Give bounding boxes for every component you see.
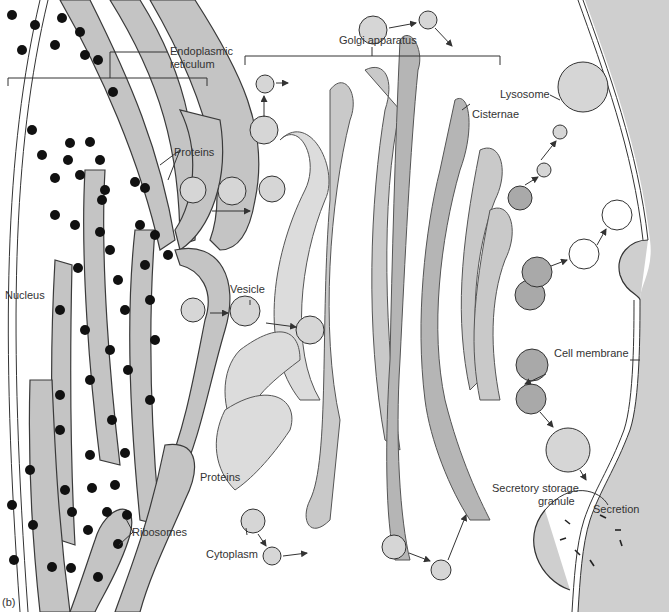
label-cytoplasm: Cytoplasm (206, 548, 258, 560)
label-nucleus: Nucleus (5, 289, 45, 301)
label-proteins-bottom: Proteins (200, 471, 241, 483)
label-proteins-top: Proteins (174, 146, 215, 158)
label-vesicle: Vesicle (230, 283, 265, 295)
label-endoplasmic-reticulum-2: reticulum (170, 58, 215, 70)
panel-label: (b) (2, 596, 15, 608)
label-secretory-1: Secretory storage (492, 482, 579, 494)
label-ribosomes: Ribosomes (132, 526, 188, 538)
label-golgi-apparatus: Golgi apparatus (339, 34, 417, 46)
label-lysosome: Lysosome (500, 88, 550, 100)
label-endoplasmic-reticulum-1: Endoplasmic (170, 45, 233, 57)
golgi-secretion-diagram: Endoplasmic reticulum Golgi apparatus Ci… (0, 0, 669, 612)
label-secretion: Secretion (593, 503, 639, 515)
endoplasmic-reticulum (29, 0, 259, 612)
golgi-cisternae (216, 35, 512, 560)
label-secretory-2: granule (538, 495, 575, 507)
label-cell-membrane: Cell membrane (554, 347, 629, 359)
label-cisternae: Cisternae (472, 108, 519, 120)
